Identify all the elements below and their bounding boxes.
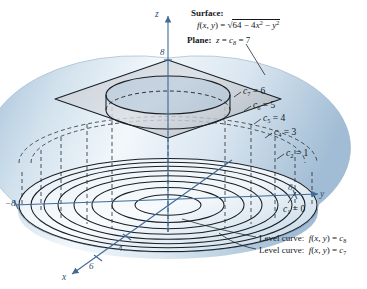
- level-label-c7: c7 = 6: [243, 86, 265, 97]
- surface-equation: f(x, y) = √64 − 4x2 − y2: [197, 19, 280, 30]
- caption-level-curve-c8: Level curve: f(x, y) = c8: [259, 233, 346, 245]
- equation-args: (x, y) =: [200, 20, 228, 30]
- surface-title: Surface:: [191, 8, 224, 18]
- y-axis-tick-8: 8: [288, 182, 293, 192]
- level-label-c2: c2 = 1: [286, 148, 308, 159]
- plane-label: Plane: z = c8 = 7: [187, 35, 250, 47]
- level-label-c5: c5 = 4: [263, 113, 285, 124]
- caption-level-curve-c7: Level curve: f(x, y) = c7: [259, 245, 346, 257]
- y-axis-label: y: [320, 189, 324, 200]
- level-label-c6: c6 = 5: [253, 100, 275, 111]
- level-label-c4: c4 = 3: [274, 127, 296, 138]
- x-axis-tick-4: 4: [118, 243, 123, 253]
- z-axis-label: z: [155, 9, 159, 20]
- y-axis-tick-neg8: −8: [5, 198, 16, 208]
- x-axis-label: x: [62, 272, 66, 283]
- z-axis-tick-8: 8: [160, 47, 165, 57]
- equation-radicand: 64 − 4x2 − y2: [232, 19, 281, 30]
- level-label-c1: c1 = 0: [283, 204, 305, 215]
- x-axis-tick-6: 6: [89, 261, 94, 271]
